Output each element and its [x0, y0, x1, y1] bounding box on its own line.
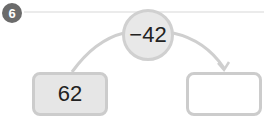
- answer-box[interactable]: [186, 72, 262, 116]
- left-arc: [72, 33, 124, 72]
- right-arc: [173, 33, 224, 68]
- problem-number-badge: 6: [2, 3, 22, 23]
- start-value-box: 62: [32, 72, 108, 116]
- operation-circle: −42: [122, 9, 174, 61]
